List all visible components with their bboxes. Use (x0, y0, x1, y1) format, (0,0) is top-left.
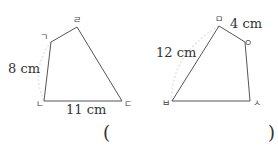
vertex-label: ㄴ (36, 97, 44, 110)
measurement-label: 11 cm (66, 102, 106, 117)
answer-close-paren: ) (268, 122, 275, 143)
answer-blank[interactable] (116, 124, 266, 146)
answer-open-paren: ( (103, 122, 110, 143)
shape-outline (44, 27, 122, 101)
left-quadrilateral (38, 27, 122, 101)
vertex-label: ㅅ (253, 96, 261, 109)
vertex-label: ㄹ (73, 13, 81, 26)
measurement-label: 8 cm (8, 61, 40, 76)
vertex-label: ㄱ (40, 30, 48, 43)
measurement-label: 12 cm (156, 45, 196, 60)
vertex-label: ㅂ (162, 96, 170, 109)
shape-outline (172, 26, 250, 101)
vertex-label: ㅇ (244, 36, 252, 49)
vertex-label: ㅁ (215, 12, 223, 25)
vertex-label: ㄷ (124, 97, 132, 110)
right-quadrilateral (172, 26, 250, 101)
measurement-label: 4 cm (230, 16, 262, 31)
